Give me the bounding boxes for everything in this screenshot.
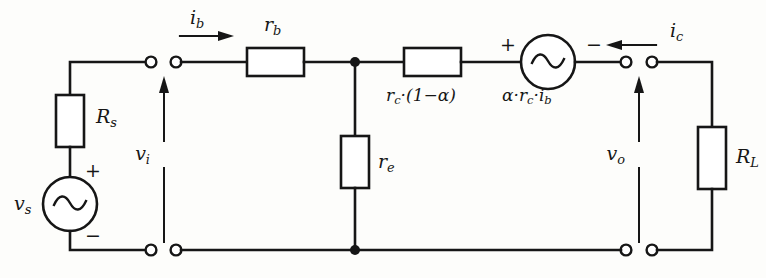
output-terminal-top-left[interactable] [621, 57, 632, 68]
circuit-schematic: Rs vs + − ib vi rb re rc·(1−α) α·rc·ib +… [0, 0, 766, 278]
wire-rl-to-output-bottom [657, 189, 712, 250]
load-resistor [698, 127, 726, 189]
base-resistor [247, 48, 304, 76]
collector-current-label: ic [670, 19, 683, 44]
source-resistor-label: Rs [95, 105, 117, 130]
wire-source-bottom [70, 231, 146, 250]
collector-resistor-label: rc·(1−α) [386, 85, 456, 108]
dependent-source-label: α·rc·ib [502, 85, 552, 108]
wire-source-top [70, 62, 146, 95]
collector-resistor [404, 48, 461, 76]
output-voltage-label: vo [606, 142, 625, 167]
input-voltage-arrow-head [159, 76, 169, 93]
load-resistor-label: RL [735, 145, 759, 170]
source-voltage-label: vs [14, 192, 32, 217]
base-resistor-label: rb [264, 13, 281, 38]
emitter-node-bottom [350, 245, 360, 255]
source-plus-sign: + [85, 159, 101, 181]
emitter-resistor [341, 136, 369, 188]
dependent-source-plus-sign: + [500, 33, 516, 55]
input-voltage-label: vi [135, 142, 150, 167]
input-terminal-bottom-left[interactable] [146, 245, 157, 256]
collector-current-arrow-head [606, 40, 622, 50]
source-resistor [56, 95, 84, 147]
base-current-label: ib [190, 6, 204, 31]
output-voltage-arrow-head [634, 76, 644, 93]
wire-output-top-to-rl [657, 62, 712, 127]
input-terminal-top-left[interactable] [146, 57, 157, 68]
dependent-source-minus-sign: − [586, 33, 602, 55]
circuit-diagram-page: Rs vs + − ib vi rb re rc·(1−α) α·rc·ib +… [0, 0, 766, 278]
base-current-arrow-head [218, 31, 234, 41]
source-minus-sign: − [85, 224, 101, 246]
emitter-resistor-label: re [378, 150, 395, 175]
